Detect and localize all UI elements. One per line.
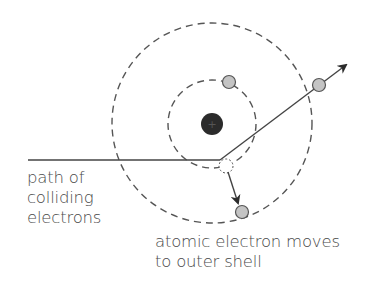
label-line: to outer shell	[155, 252, 340, 272]
deflected-electron-path	[220, 65, 346, 160]
label-line: path of	[27, 168, 101, 188]
outer-shell-electron	[236, 206, 249, 219]
nucleus: +	[201, 113, 223, 135]
label-line: colliding	[27, 188, 101, 208]
inner-shell-electron	[223, 76, 236, 89]
vacated-electron-position	[219, 159, 233, 173]
electron-transition-arrow	[228, 172, 238, 203]
scattered-electron	[313, 79, 326, 92]
atomic-electron-moves-label: atomic electron moves to outer shell	[155, 232, 340, 272]
label-line: electrons	[27, 208, 101, 228]
path-of-colliding-electrons-label: path of colliding electrons	[27, 168, 101, 228]
label-line: atomic electron moves	[155, 232, 340, 252]
nucleus-plus-icon: +	[207, 118, 216, 131]
